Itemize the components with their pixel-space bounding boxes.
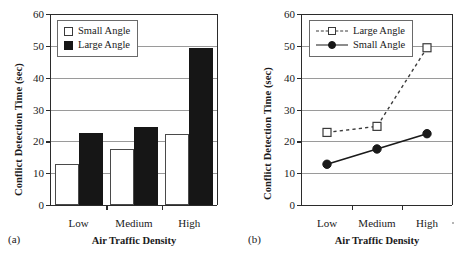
x-axis-title-a: Air Traffic Density [92,235,177,246]
legend-key-dashed-open-square-icon [316,26,348,36]
bar-medium-small-angle [110,149,134,205]
y-tick-label: 60 [33,9,44,20]
y-tick-label: 60 [284,9,295,20]
x-tick [162,205,163,210]
marker-large-angle-high [423,44,431,52]
x-tick [352,205,353,210]
legend-a: Small Angle Large Angle [57,20,138,57]
marker-small-angle-high [423,129,431,137]
panel-caption-a: (a) [8,233,20,245]
y-axis-title-b: Conflict Detection Time (sec) [262,67,273,200]
legend-item-large-angle: Large Angle [316,24,405,38]
legend-swatch-open-square-icon [64,27,73,36]
bar-low-large-angle [79,133,103,205]
y-tick [46,14,51,15]
y-tick-label: 30 [33,104,44,115]
scan-artifact-dot [452,222,454,224]
x-axis-title-b: Air Traffic Density [335,235,420,246]
y-tick [46,141,51,142]
legend-label-large-angle: Large Angle [78,38,130,52]
bar-high-small-angle [165,134,189,205]
y-tick-label: 40 [33,72,44,83]
bar-high-large-angle [189,48,213,205]
bar-medium-large-angle [134,127,158,205]
y-tick-label: 40 [284,72,295,83]
marker-small-angle-low [323,160,331,168]
y-tick [46,46,51,47]
line-large-angle [327,48,427,133]
marker-small-angle-medium [373,145,381,153]
y-tick-label: 10 [284,168,295,179]
bar-low-small-angle [55,164,79,205]
x-tick-label-medium: Medium [358,217,395,229]
y-tick [46,110,51,111]
y-tick [46,78,51,79]
y-tick-label: 10 [33,168,44,179]
x-tick [106,205,107,210]
legend-b: Large Angle Small Angle [309,20,413,57]
legend-item-small-angle: Small Angle [316,38,405,52]
y-tick-label: 0 [39,200,45,211]
figure-two-panel-chart: Conflict Detection Time (sec) 0102030405… [0,0,471,256]
legend-label-small-angle: Small Angle [78,24,130,38]
legend-key-solid-filled-circle-icon [316,40,348,50]
y-axis-title-a: Conflict Detection Time (sec) [13,63,24,196]
y-tick [297,205,302,206]
x-tick-label-medium: Medium [115,217,152,229]
x-tick-label-high: High [178,217,200,229]
gridline [51,14,217,15]
y-tick [46,205,51,206]
x-tick-label-low: Low [317,217,337,229]
legend-label-small-angle: Small Angle [353,38,405,52]
x-tick-label-high: High [416,217,438,229]
y-tick-label: 50 [33,40,44,51]
x-tick-label-low: Low [69,217,89,229]
y-tick-label: 20 [33,136,44,147]
panel-b: Conflict Detection Time (sec) 0102030405… [235,0,471,256]
legend-label-large-angle: Large Angle [353,24,405,38]
panel-a: Conflict Detection Time (sec) 0102030405… [0,0,236,256]
y-tick-label: 50 [284,40,295,51]
panel-caption-b: (b) [248,233,261,245]
y-tick-label: 30 [284,104,295,115]
marker-large-angle-medium [373,122,381,130]
x-tick [402,205,403,210]
legend-item-small-angle: Small Angle [64,24,130,38]
legend-item-large-angle: Large Angle [64,38,130,52]
legend-swatch-filled-square-icon [64,41,73,50]
y-tick-label: 0 [290,200,296,211]
marker-large-angle-low [323,128,331,136]
y-tick-label: 20 [284,136,295,147]
y-tick [46,173,51,174]
